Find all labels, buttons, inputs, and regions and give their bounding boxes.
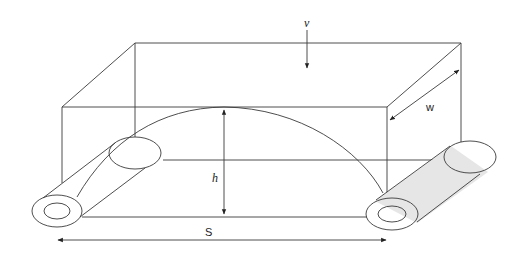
label-S: S — [205, 226, 212, 238]
span-dimension: S — [58, 226, 386, 240]
tube-right — [366, 141, 496, 230]
tube-left — [32, 137, 161, 227]
label-h: h — [212, 171, 218, 185]
arch-curve — [77, 107, 383, 197]
label-v: v — [304, 16, 310, 30]
height-dimension: h — [212, 110, 224, 214]
load-arrow: v — [304, 16, 310, 68]
label-w: w — [425, 101, 434, 113]
arch-box-diagram: v h w S — [0, 0, 524, 256]
